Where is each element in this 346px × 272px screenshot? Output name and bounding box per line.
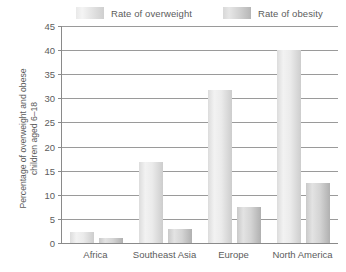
tick-mark-10 — [58, 195, 62, 196]
bar-africa-obesity — [99, 238, 123, 243]
bar-europe-overweight — [208, 90, 232, 243]
x-axis-label-europe: Europe — [218, 249, 249, 260]
tick-mark-15 — [58, 171, 62, 172]
y-tick-label-20: 20 — [44, 141, 55, 152]
tick-mark-0 — [58, 243, 62, 244]
bar-north-america-overweight — [277, 50, 301, 243]
y-tick-label-25: 25 — [44, 117, 55, 128]
tick-mark-5 — [58, 219, 62, 220]
x-axis-label-southeast-asia: Southeast Asia — [133, 249, 196, 260]
gridline-45 — [62, 26, 338, 27]
tick-mark-25 — [58, 122, 62, 123]
legend-label-overweight: Rate of overweight — [111, 8, 192, 19]
plot-area: 051015202530354045 — [61, 26, 338, 244]
x-axis-label-africa: Africa — [83, 249, 107, 260]
bar-southeast-asia-obesity — [168, 229, 192, 243]
legend-item-rate-of-obesity: Rate of obesity — [223, 4, 323, 22]
bar-africa-overweight — [70, 232, 94, 243]
x-axis-label-north-america: North America — [272, 249, 332, 260]
legend-swatch-overweight — [76, 7, 104, 19]
y-tick-label-10: 10 — [44, 189, 55, 200]
tick-mark-20 — [58, 147, 62, 148]
y-axis-title: Percentage of overweight and obese child… — [18, 34, 39, 244]
tick-mark-40 — [58, 50, 62, 51]
legend-swatch-obesity — [223, 7, 251, 19]
tick-mark-30 — [58, 98, 62, 99]
y-tick-label-30: 30 — [44, 93, 55, 104]
bar-north-america-obesity — [306, 183, 330, 243]
legend-label-obesity: Rate of obesity — [258, 8, 323, 19]
bar-europe-obesity — [237, 207, 261, 243]
bar-southeast-asia-overweight — [139, 162, 163, 243]
y-tick-label-35: 35 — [44, 69, 55, 80]
y-tick-label-40: 40 — [44, 45, 55, 56]
bar-chart: Rate of overweight Rate of obesity Perce… — [0, 0, 346, 272]
y-axis-title-line-1: Percentage of overweight and obese — [18, 34, 29, 244]
tick-mark-45 — [58, 26, 62, 27]
y-tick-label-0: 0 — [50, 238, 55, 249]
legend-item-rate-of-overweight: Rate of overweight — [76, 4, 192, 22]
y-tick-label-15: 15 — [44, 165, 55, 176]
y-tick-label-5: 5 — [50, 213, 55, 224]
y-tick-label-45: 45 — [44, 21, 55, 32]
y-axis-title-line-2: children aged 6–18 — [28, 34, 39, 244]
tick-mark-35 — [58, 74, 62, 75]
